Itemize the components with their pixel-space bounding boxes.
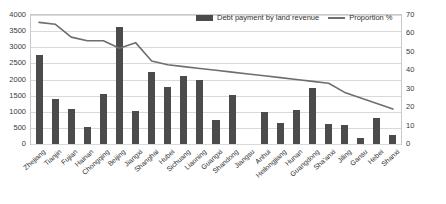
bar — [180, 76, 187, 144]
y-axis-right-tick: 30 — [406, 85, 432, 93]
x-axis-category-labels: ZhejiangTianjinFujianHainanChongqingBeij… — [31, 148, 401, 204]
legend-label-debt-payment: Debt payment by land revenue — [217, 13, 319, 22]
bar — [36, 55, 43, 144]
chart-container: 05001000150020002500300035004000 0102030… — [0, 0, 446, 204]
bar-series-debt-payment — [31, 15, 401, 144]
y-axis-right-tick: 40 — [406, 66, 432, 74]
y-axis-left-tick: 500 — [0, 124, 26, 132]
legend-label-proportion: Proportion % — [349, 13, 392, 22]
legend-line-swatch-icon — [328, 17, 345, 19]
y-axis-left-tick: 2000 — [0, 76, 26, 84]
legend-item-debt-payment: Debt payment by land revenue — [196, 13, 319, 22]
chart-legend: Debt payment by land revenue Proportion … — [196, 13, 393, 22]
legend-item-proportion: Proportion % — [328, 13, 392, 22]
legend-bar-swatch-icon — [196, 15, 213, 21]
y-axis-left-tick: 3000 — [0, 43, 26, 51]
y-axis-left-tick: 3500 — [0, 27, 26, 35]
y-axis-left-tick: 1500 — [0, 92, 26, 100]
y-axis-right-tick: 60 — [406, 29, 432, 37]
y-axis-right-tick: 20 — [406, 103, 432, 111]
bar — [116, 27, 123, 144]
y-axis-left-tick: 0 — [0, 140, 26, 148]
y-axis-right-tick: 10 — [406, 122, 432, 130]
y-axis-right-tick: 70 — [406, 11, 432, 19]
y-axis-left-tick: 4000 — [0, 11, 26, 19]
y-axis-right-tick: 50 — [406, 48, 432, 56]
y-axis-left-tick: 1000 — [0, 108, 26, 116]
y-axis-left-tick: 2500 — [0, 59, 26, 67]
